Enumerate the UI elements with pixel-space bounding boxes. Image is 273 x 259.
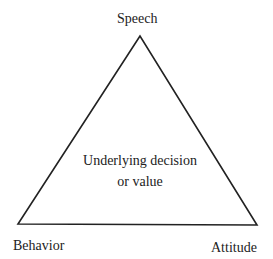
triangle-diagram: Speech Behavior Attitude Underlying deci… [0, 0, 273, 259]
center-label-line1: Underlying decision [70, 150, 210, 171]
vertex-label-attitude: Attitude [211, 240, 257, 256]
center-label: Underlying decision or value [70, 150, 210, 192]
triangle-shape [0, 0, 273, 259]
center-label-line2: or value [70, 171, 210, 192]
vertex-label-behavior: Behavior [13, 238, 64, 254]
vertex-label-speech: Speech [117, 11, 157, 27]
